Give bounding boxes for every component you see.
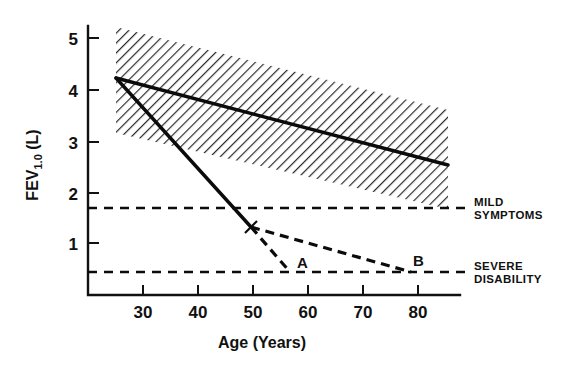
y-axis-title-sub: 1.0: [32, 154, 44, 169]
x-tick-label-40: 40: [189, 303, 208, 322]
severe-disability-line1: SEVERE: [474, 260, 523, 272]
y-tick-label-5: 5: [69, 30, 78, 49]
y-tick-label-2: 2: [69, 185, 78, 204]
x-axis-ticks: [143, 285, 418, 295]
y-tick-label-3: 3: [69, 134, 78, 153]
x-axis-title: Age (Years): [218, 334, 306, 351]
y-axis-title-main: FEV: [24, 169, 41, 200]
y-tick-label-4: 4: [69, 82, 79, 101]
x-tick-label-80: 80: [409, 303, 428, 322]
svg-text:FEV1.0 (L): FEV1.0 (L): [24, 129, 44, 200]
figure-container: 5 4 3 2 1 30 40 50 60 70 80 Age (Years): [0, 0, 584, 374]
mild-symptoms-line2: SYMPTOMS: [474, 209, 543, 221]
y-tick-label-1: 1: [69, 235, 78, 254]
x-axis-tick-labels: 30 40 50 60 70 80: [134, 303, 428, 322]
x-tick-label-70: 70: [354, 303, 373, 322]
x-tick-label-30: 30: [134, 303, 153, 322]
severe-disability-annotation: SEVERE DISABILITY: [474, 260, 542, 285]
severe-disability-line2: DISABILITY: [474, 273, 542, 285]
x-axis-title-label: Age (Years): [218, 334, 306, 351]
y-axis-title: FEV1.0 (L): [24, 129, 44, 200]
x-tick-label-50: 50: [244, 303, 263, 322]
y-axis-tick-labels: 5 4 3 2 1: [69, 30, 79, 254]
point-label-a: A: [297, 254, 308, 271]
y-axis-title-unit: (L): [24, 129, 41, 154]
mild-symptoms-annotation: MILD SYMPTOMS: [474, 196, 543, 221]
y-axis-ticks: [88, 38, 99, 243]
mild-symptoms-line1: MILD: [474, 196, 504, 208]
normal-range-band: [116, 27, 448, 209]
x-tick-label-60: 60: [299, 303, 318, 322]
fev-decline-chart: 5 4 3 2 1 30 40 50 60 70 80 Age (Years): [0, 0, 584, 374]
point-label-b: B: [413, 252, 424, 269]
stopped-smoking-line-b: [251, 227, 411, 272]
